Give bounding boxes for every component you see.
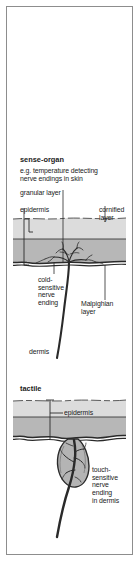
label-epidermis-bottom: epidermis	[64, 409, 93, 417]
sense-organ-heading: sense-organ	[20, 156, 64, 164]
label-epidermis-top: epidermis	[20, 206, 49, 214]
sense-organ-description: e.g. temperature detecting nerve endings…	[20, 167, 136, 182]
label-dermis: dermis	[29, 348, 49, 356]
touch-corpuscle	[57, 439, 89, 537]
skin-surface-line-bottom	[13, 400, 126, 401]
label-touch-sensitive-nerve-ending: touch- sensitive nerve ending in dermis	[92, 466, 137, 505]
label-granular-layer: granular layer	[20, 189, 61, 197]
label-cornified-layer: cornified layer	[99, 206, 137, 221]
figure-page: sense-organ e.g. temperature detecting n…	[0, 0, 139, 561]
granular-layer-fill-bottom	[13, 417, 126, 439]
label-malpighian-layer: Malpighian layer	[81, 300, 133, 315]
label-tactile: tactile	[20, 385, 41, 393]
label-cold-sensitive-nerve-ending: cold- sensitive nerve ending	[38, 276, 72, 307]
